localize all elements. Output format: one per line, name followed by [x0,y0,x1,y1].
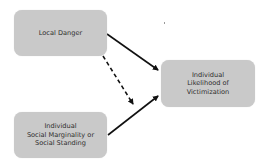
scan-artifact-dot [164,22,165,24]
node-likelihood-of-victimization: Individual Likelihood of Victimization [161,60,255,107]
node-local-danger: Local Danger [14,10,107,56]
node-label-line: Victimization [187,88,230,96]
node-label-line: Social Standing [27,139,94,147]
node-label-line: Likelihood of [187,79,230,87]
node-label-line: Individual [187,71,230,79]
node-label-line: Social Marginality or [27,131,94,139]
node-label-line: Local Danger [39,29,82,37]
edge-local-danger-to-victimization [107,34,158,70]
node-label-line: Individual [27,122,94,130]
edge-local-danger-moderating-dashed [103,56,133,104]
node-social-marginality: Individual Social Marginality or Social … [14,112,107,158]
edge-social-marginality-to-victimization [108,96,158,135]
